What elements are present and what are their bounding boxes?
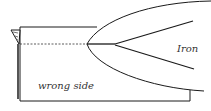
fabric-label: wrong side — [38, 80, 94, 91]
iron-upper-line — [115, 21, 193, 44]
iron-label: Iron — [176, 43, 198, 54]
ironing-diagram: Iron wrong side — [0, 0, 211, 111]
